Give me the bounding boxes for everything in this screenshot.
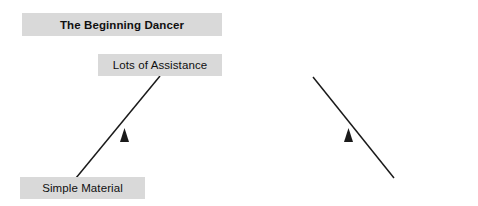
- panel-beginning-dancer: The Beginning Dancer Lots of Assistance …: [0, 0, 239, 206]
- node-simple-material: Simple Material: [20, 177, 145, 199]
- node-lots-of-assistance: Lots of Assistance: [98, 54, 222, 76]
- panel-header-beginning-dancer: The Beginning Dancer: [22, 13, 222, 36]
- dancer-comparison-diagram: The Beginning Dancer Lots of Assistance …: [0, 0, 478, 206]
- panel-experienced-dancer: The Experienced Dancer Complex Material …: [239, 0, 478, 206]
